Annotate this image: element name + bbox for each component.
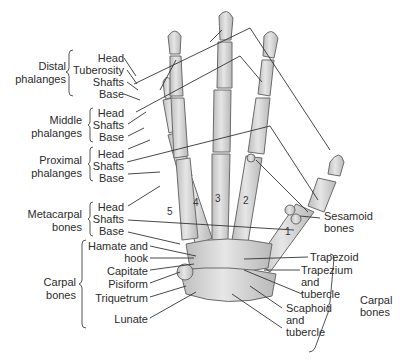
- label-hamate-line1: Hamate and: [84, 240, 148, 252]
- middle-distal-phalanx: [219, 11, 233, 40]
- label-line: Metacarpal: [18, 208, 82, 221]
- metacarpal-number-5: 5: [167, 206, 173, 217]
- label-distal-head: Head: [70, 52, 124, 64]
- label-distal-base: Base: [70, 88, 124, 100]
- label-distal-shafts: Shafts: [70, 76, 124, 88]
- metacarpal-2-head-sesamoid: [247, 154, 255, 162]
- metacarpal-number-2: 2: [243, 195, 249, 206]
- label-metacarpal-shafts: Shafts: [80, 213, 124, 225]
- index-proximal-phalanx: [248, 98, 270, 154]
- label-trapezium-line1: Trapezium: [301, 264, 353, 276]
- label-proximal-base: Base: [80, 172, 124, 184]
- label-line: bones: [18, 221, 82, 234]
- label-trapezoid: Trapezoid: [310, 251, 359, 263]
- thumb-proximal-phalanx: [308, 178, 336, 212]
- label-carpal-right-line1: Carpal: [360, 294, 392, 306]
- sesamoid-bone-1: [285, 205, 295, 215]
- label-hamate-line2: hook: [84, 252, 148, 264]
- group-label-proximal-phalanges: Proximal phalanges: [20, 154, 82, 179]
- label-trapezium-line3: tubercle: [301, 288, 340, 300]
- index-distal-phalanx: [263, 31, 278, 58]
- group-label-metacarpal-bones: Metacarpal bones: [18, 208, 82, 233]
- label-sesamoid-line2: bones: [324, 222, 354, 234]
- label-middle-head: Head: [80, 107, 124, 119]
- label-distal-tuberosity: Tuberosity: [60, 64, 124, 76]
- label-line: Distal: [10, 60, 66, 73]
- label-carpal-right-line2: bones: [360, 306, 390, 318]
- label-line: Middle: [20, 114, 82, 127]
- index-middle-phalanx: [258, 60, 274, 96]
- hand-skeleton-illustration: [0, 0, 405, 360]
- carpal-row-distal: [186, 239, 272, 272]
- sesamoid-bone-2: [291, 214, 301, 224]
- label-proximal-shafts: Shafts: [80, 160, 124, 172]
- label-line: Carpal: [30, 276, 76, 289]
- hand-bones-diagram: Distal phalanges Middle phalanges Proxim…: [0, 0, 405, 360]
- metacarpal-number-4: 4: [193, 197, 199, 208]
- group-label-carpal-bones-left: Carpal bones: [30, 276, 76, 301]
- label-lunate: Lunate: [84, 313, 148, 325]
- group-label-middle-phalanges: Middle phalanges: [20, 114, 82, 139]
- thumb-distal-phalanx: [328, 155, 344, 176]
- label-line: Proximal: [20, 154, 82, 167]
- label-middle-base: Base: [80, 131, 124, 143]
- label-sesamoid-line1: Sesamoid: [324, 210, 373, 222]
- ring-distal-phalanx: [168, 31, 181, 54]
- label-proximal-head: Head: [80, 148, 124, 160]
- middle-middle-phalanx: [217, 42, 232, 88]
- label-line: phalanges: [10, 73, 66, 86]
- label-scaphoid-line2: and: [286, 314, 304, 326]
- label-capitate: Capitate: [84, 265, 148, 277]
- middle-proximal-phalanx: [213, 90, 231, 152]
- label-scaphoid-line3: tubercle: [286, 326, 325, 338]
- carpal-row-proximal: [180, 268, 276, 302]
- label-metacarpal-head: Head: [80, 201, 124, 213]
- group-label-distal-phalanges: Distal phalanges: [10, 60, 66, 85]
- label-line: bones: [30, 289, 76, 302]
- label-pisiform: Pisiform: [84, 278, 148, 290]
- label-line: phalanges: [20, 127, 82, 140]
- label-middle-shafts: Shafts: [80, 119, 124, 131]
- label-triquetrum: Triquetrum: [84, 292, 148, 304]
- label-line: phalanges: [20, 167, 82, 180]
- label-scaphoid-line1: Scaphoid: [286, 302, 332, 314]
- label-trapezium-line2: and: [301, 276, 319, 288]
- metacarpal-number-1: 1: [285, 226, 291, 237]
- metacarpal-number-3: 3: [215, 193, 221, 204]
- label-metacarpal-base: Base: [80, 225, 124, 237]
